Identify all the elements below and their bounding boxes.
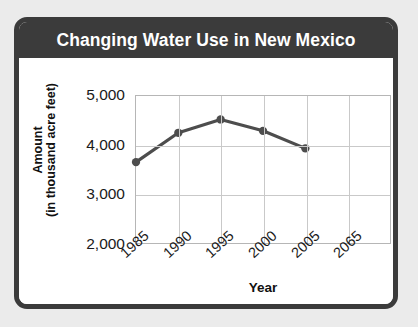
y-axis-title-line2: (in thousand acre feet) [45,83,59,217]
y-axis-tick-labels: 5,0004,0003,0002,000 [65,58,125,304]
plot-area [135,95,391,244]
y-axis-tick-label: 2,000 [71,235,125,253]
x-axis-title: Year [135,280,391,295]
gridline-vertical [307,96,308,243]
page-title: Changing Water Use in New Mexico [56,30,355,51]
gridline-vertical [264,96,265,243]
y-axis-title-line1: Amount [32,126,46,173]
chart-page: Changing Water Use in New Mexico Amount … [0,0,418,327]
gridline-horizontal [136,195,390,196]
chart-card: Changing Water Use in New Mexico Amount … [14,17,398,309]
chart-title-bar: Changing Water Use in New Mexico [19,22,393,58]
gridline-horizontal [136,146,390,147]
data-point-marker [132,158,140,166]
y-axis-tick-label: 5,000 [71,86,125,104]
water-use-line-series [136,96,390,243]
y-axis-tick-label: 3,000 [71,185,125,203]
y-axis-tick-label: 4,000 [71,136,125,154]
y-axis-title: Amount (in thousand acre feet) [28,65,62,235]
chart-body: Amount (in thousand acre feet) 5,0004,00… [19,58,393,304]
data-point-marker [259,127,267,135]
gridline-vertical [221,96,222,243]
gridline-vertical [349,96,350,243]
gridline-vertical [179,96,180,243]
